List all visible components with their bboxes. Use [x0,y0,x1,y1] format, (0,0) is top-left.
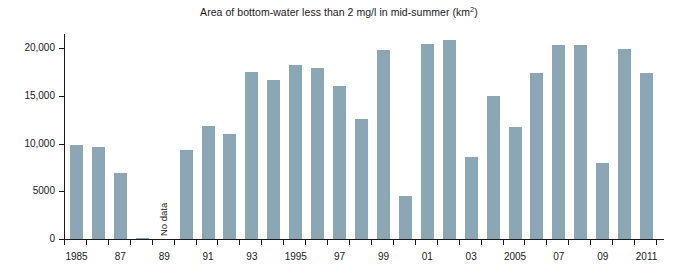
bar [487,96,500,240]
bar [289,65,302,239]
chart-title: Area of bottom-water less than 2 mg/l in… [0,6,678,19]
x-axis-line [64,239,664,240]
y-axis-tick [59,191,64,192]
x-axis-tick [349,240,350,245]
x-axis-tick [174,240,175,245]
bar [114,173,127,239]
x-axis-tick-label: 93 [232,251,272,262]
x-axis-tick [305,240,306,245]
x-axis-tick-label: 97 [320,251,360,262]
bar [399,196,412,239]
plot-area: 198587899193199597990103200507092011 No … [64,34,664,240]
x-axis-tick [217,240,218,245]
x-axis-tick [612,240,613,245]
bar [223,134,236,239]
x-axis-tick [437,240,438,245]
x-axis-tick-label: 2005 [495,251,535,262]
bar [552,45,565,240]
x-axis-tick-label: 1995 [276,251,316,262]
x-axis-tick [546,240,547,245]
x-axis-tick-label: 91 [188,251,228,262]
x-axis-tick [130,240,131,245]
x-axis-tick [239,240,240,245]
x-axis-tick [327,240,328,245]
x-axis-tick [415,240,416,245]
x-axis-tick [196,240,197,245]
x-axis-tick [503,240,504,245]
x-axis-tick-label: 1985 [57,251,97,262]
y-axis-tick-label: 5000 [0,186,55,196]
bar [377,50,390,239]
y-axis-tick-label: 10,000 [0,139,55,149]
bar [596,163,609,239]
bar [136,238,149,239]
bar [465,157,478,239]
bar [421,44,434,239]
y-axis-line [64,34,65,240]
x-axis-tick [481,240,482,245]
bar [509,127,522,239]
bar [333,86,346,239]
bar [618,49,631,239]
no-data-label: No data [159,203,169,236]
chart-title-main: Area of bottom-water less than 2 mg/l in… [200,6,470,18]
x-axis-tick [393,240,394,245]
bar [355,119,368,239]
bar [70,145,83,239]
x-axis-tick-label: 89 [144,251,184,262]
x-axis-tick [634,240,635,245]
x-axis-tick [108,240,109,245]
bar [443,40,456,239]
x-axis-tick-label: 03 [451,251,491,262]
y-axis-tick [59,144,64,145]
y-axis-tick [59,48,64,49]
y-axis-tick-label: 0 [0,234,55,244]
x-axis-tick-label: 01 [407,251,447,262]
bar [530,73,543,239]
x-axis-tick [590,240,591,245]
x-axis-tick [656,240,657,245]
bar [245,72,258,239]
x-axis-tick-label: 99 [363,251,403,262]
x-axis-tick [371,240,372,245]
bar [202,126,215,239]
bar [267,80,280,239]
x-axis-tick [64,240,65,245]
bar [92,147,105,239]
x-axis-tick [568,240,569,245]
bar [574,45,587,239]
y-axis-tick-label: 20,000 [0,43,55,53]
x-axis-tick [459,240,460,245]
y-axis-tick-label: 15,000 [0,91,55,101]
x-axis-tick [524,240,525,245]
y-axis-tick [59,96,64,97]
x-axis-tick [261,240,262,245]
x-axis-tick-label: 07 [539,251,579,262]
x-axis-tick [152,240,153,245]
x-axis-tick [86,240,87,245]
chart-title-tail: ) [474,6,478,18]
x-axis-tick [283,240,284,245]
bar [311,68,324,239]
x-axis-tick-label: 2011 [627,251,667,262]
x-axis-tick-label: 87 [100,251,140,262]
x-axis-tick-label: 09 [583,251,623,262]
bar [640,73,653,239]
chart-figure: Area of bottom-water less than 2 mg/l in… [0,0,678,276]
bar [180,150,193,239]
